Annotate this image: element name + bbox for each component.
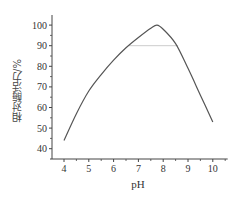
x-tick-label: 4: [62, 163, 67, 174]
x-tick-label: 8: [161, 163, 166, 174]
x-tick-label: 10: [208, 163, 218, 174]
x-tick-label: 6: [111, 163, 116, 174]
y-axis-label-container: 相对酶活力/%: [10, 50, 24, 130]
y-tick-label: 50: [37, 123, 47, 134]
y-tick-label: 70: [37, 81, 47, 92]
y-tick-label: 40: [37, 143, 47, 154]
x-tick-label: 5: [86, 163, 91, 174]
y-tick-label: 90: [37, 40, 47, 51]
y-tick-label: 60: [37, 102, 47, 113]
x-axis-label: pH: [131, 178, 145, 190]
activity-curve: [64, 25, 213, 140]
y-tick-label: 100: [32, 20, 47, 31]
x-axis-ticks: 45678910: [62, 159, 226, 174]
x-tick-label: 7: [136, 163, 141, 174]
y-axis-label: 相对酶活力/%: [10, 59, 25, 122]
data-series: [64, 25, 213, 140]
y-tick-label: 80: [37, 61, 47, 72]
ph-activity-chart: 45678910 405060708090100 pH: [0, 0, 238, 198]
x-tick-label: 9: [186, 163, 191, 174]
y-axis-ticks: 405060708090100: [32, 20, 52, 155]
